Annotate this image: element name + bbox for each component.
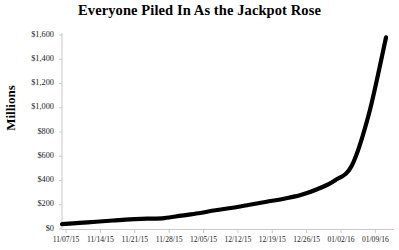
chart-figure: Everyone Piled In As the Jackpot Rose Mi… bbox=[0, 0, 399, 250]
jackpot-line-series bbox=[62, 37, 386, 224]
plot-area bbox=[0, 0, 399, 250]
x-axis-ticks bbox=[66, 230, 375, 233]
